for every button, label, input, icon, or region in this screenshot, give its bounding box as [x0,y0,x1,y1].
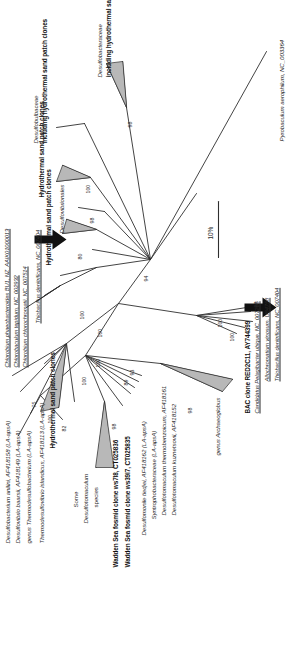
taxon-label-t04: Thermodesulfovibrio islandicus, AF418113… [38,402,44,543]
phylogenetic-tree-figure: Desulfobacterium anilini, AF418158 (LA-a… [0,0,307,663]
bootstrap-value-b13: 98 [88,217,94,223]
bootstrap-value-b02: 75 [30,401,36,407]
bootstrap-value-b17: 100 [96,328,102,337]
bootstrap-value-b01: 100 [46,414,52,423]
bootstrap-value-b14: 100 [84,184,90,193]
bootstrap-value-b07: 93 [128,369,134,375]
taxon-label-t28: Candidatus Pelagibacter ubique, NC_00720… [254,301,260,413]
taxon-label-t08: Chlorobium chlorochromatii, NC_007514 [22,266,28,367]
bootstrap-value-b12: 80 [76,253,82,259]
taxon-label-t20: Wadden Sea fosmid clone ws7l8, CT025836 [112,439,119,567]
taxon-label-t18: Desulfotomaculum [82,473,88,523]
bootstrap-value-b05: 100 [94,358,100,367]
bootstrap-value-b03: 82 [60,425,66,431]
bootstrap-value-b16: 94 [142,275,148,281]
taxon-label-t17: Some [72,491,78,507]
taxon-label-t16: including hydrothermal sand patch clones [105,0,112,77]
taxon-label-t26: genus Archaeoglobus [214,397,220,455]
taxon-label-t03: genus Thermodesulfobacterium (LA-apsA) [25,430,31,543]
taxon-label-t27: BAC clone RED2C11, AY744399 [244,320,251,413]
taxon-label-t21: Wadden Sea fosmid clone ws39l7, CT025835 [124,436,131,567]
bootstrap-value-b11: 100 [78,310,84,319]
taxon-label-t01: Desulfobacterium anilini, AF418158 (LA-a… [4,420,10,543]
bootstrap-value-b08: 98 [186,407,192,413]
taxon-label-t23: Syntrophobacteraceae (LA-apsA) [150,430,156,519]
taxon-label-t30: Thiobacillus denitrificans, NC_007404 [274,287,280,381]
taxon-label-t31: Pyrobaculum aerophilum, NC_003364 [278,39,284,141]
bootstrap-value-b19: 98 [252,301,258,307]
taxon-label-t24: Desulfotomaculum thermobenzoicum, AF4181… [160,385,166,515]
taxon-label-t11: Desulfovibrionales [58,184,64,233]
tree-canvas: Desulfobacterium anilini, AF418158 (LA-a… [0,0,307,663]
taxon-label-t06: Chlorobium phaeobacteroides BU1, NZ_AAIK… [4,228,10,367]
taxon-label-t05: Hydrothermal sand patch clones [49,352,56,448]
bootstrap-value-b15: 98 [126,121,132,127]
scale-bar-label: 10% [206,226,213,239]
taxon-label-t09: Thiobacillus denitrificans, NC_007404 [35,229,41,323]
bootstrap-value-b04: 98 [110,423,116,429]
taxon-label-t14: including hydrothermal sand patch clones [41,18,48,143]
taxon-label-t25: Desulfotomaculum kuznetsovii, AF418152 [170,403,176,515]
taxon-label-t07: Chlorobaculum tepidum, NC_002932 [13,275,19,367]
taxon-label-t02: Desulfovibrio baarsii, AF418149 (LA-apsA… [14,430,20,543]
taxon-label-t22: Desulfomonile tiedjei, AF418162 (LA-apsA… [140,421,146,535]
taxon-label-t15: Desulfobacteraceae [96,24,102,77]
bootstrap-value-b06: 89 [122,379,128,385]
bootstrap-value-b09: 100 [80,376,86,385]
taxon-label-t19: species [92,487,98,507]
taxon-label-t13: Desulfobulbaceae [32,95,38,143]
taxon-label-t29: Allochromatium vinosum, U84758 [264,297,270,381]
bootstrap-value-b10: 100 [216,318,222,327]
taxon-label-t10: Hydrothermal sand patch clones [45,169,52,265]
bootstrap-value-b18: 100 [228,332,234,341]
